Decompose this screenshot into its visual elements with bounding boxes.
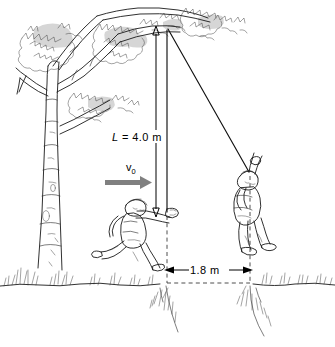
velocity-label: v0 [126,161,136,176]
swinger [234,153,276,255]
swinger-foot-front [242,247,257,255]
ground-line-right [253,283,335,285]
runner-torso [121,213,147,248]
swinger-arm-near [237,190,241,210]
distance-arrowhead-left [164,267,174,274]
runner-foot-back [92,251,103,258]
rope-length-label: L = 4.0 m [112,131,162,143]
runner-arm-lower [136,218,169,223]
horizontal-distance-label: 1.8 m [190,264,220,276]
ravine-left-edge [150,286,178,332]
swinger-foot-back [262,244,276,251]
distance-arrowhead-right [243,267,253,274]
runner [92,199,179,271]
velocity-arrow [105,176,152,189]
tree-trunk [38,61,62,270]
runner-leg-front [140,244,153,270]
distance-dimension: 1.8 m [164,176,253,283]
velocity-vector: v0 [105,161,152,189]
length-arrowhead-top [153,26,159,35]
swinger-arm-up [249,153,254,172]
swinger-leg-front [239,222,242,252]
ropes [167,29,249,212]
ravine-right-edge [237,286,271,336]
grass-tufts-left [4,268,153,286]
physics-figure: L = 4.0 m v0 [0,0,335,347]
angled-rope [168,29,249,172]
swinger-leg-back [254,221,262,248]
runner-leg-back [101,241,124,252]
ground [0,268,335,336]
